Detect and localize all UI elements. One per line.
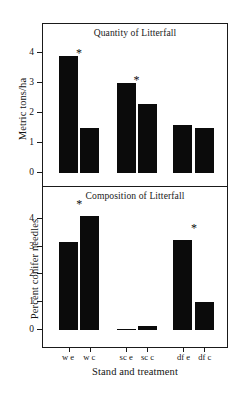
bar	[59, 56, 78, 173]
top-panel-plot-area: 01234**	[43, 24, 227, 186]
y-axis-tick: 2	[37, 273, 43, 274]
x-axis-tick-label: w e	[62, 351, 74, 363]
significance-asterisk: *	[76, 47, 82, 59]
bar	[80, 216, 99, 330]
significance-asterisk: *	[191, 222, 197, 234]
x-axis-tick-label: df c	[198, 351, 211, 363]
x-axis-tick-label: w c	[83, 351, 95, 363]
bar	[138, 326, 157, 330]
bar	[195, 128, 214, 173]
bar	[117, 83, 136, 173]
y-axis-tick-label: 3	[29, 76, 34, 89]
bar	[173, 125, 192, 173]
y-axis-tick: 0	[37, 172, 43, 173]
x-axis-tick-label: sc e	[120, 351, 133, 363]
x-axis-tick-label: df e	[177, 351, 190, 363]
x-axis-tick-labels: w ew csc esc cdf edf c	[42, 351, 228, 365]
bottom-panel-plot-area: 01234**	[43, 187, 227, 347]
y-axis-tick-label: 1	[29, 295, 34, 308]
y-axis-tick-label: 2	[29, 267, 34, 280]
significance-asterisk: *	[134, 74, 140, 86]
y-axis-tick: 4	[37, 218, 43, 219]
y-axis-tick-label: 0	[29, 166, 34, 179]
y-axis-tick-label: 4	[29, 212, 34, 225]
bar	[59, 242, 78, 330]
y-axis-tick-label: 3	[29, 240, 34, 253]
y-axis-tick: 0	[37, 329, 43, 330]
x-axis-tick-label: sc c	[141, 351, 154, 363]
y-axis-tick: 2	[37, 112, 43, 113]
litterfall-figure: Metric tons/ha Quantity of Litterfall 01…	[0, 0, 250, 393]
y-axis-tick: 1	[37, 301, 43, 302]
y-axis-tick-label: 4	[29, 46, 34, 59]
bar	[80, 128, 99, 173]
bar	[138, 104, 157, 173]
y-axis-tick-label: 1	[29, 136, 34, 149]
top-panel: Quantity of Litterfall 01234**	[42, 23, 228, 187]
bar	[173, 240, 192, 330]
bottom-panel: Composition of Litterfall 01234**	[42, 186, 228, 348]
y-axis-tick: 3	[37, 82, 43, 83]
bar	[195, 302, 214, 330]
y-axis-tick: 1	[37, 142, 43, 143]
significance-asterisk: *	[76, 198, 82, 210]
y-axis-tick: 3	[37, 246, 43, 247]
y-axis-tick-label: 0	[29, 323, 34, 336]
y-axis-tick-label: 2	[29, 106, 34, 119]
x-axis-label: Stand and treatment	[42, 366, 228, 377]
y-axis-tick: 4	[37, 52, 43, 53]
bar	[117, 329, 136, 330]
